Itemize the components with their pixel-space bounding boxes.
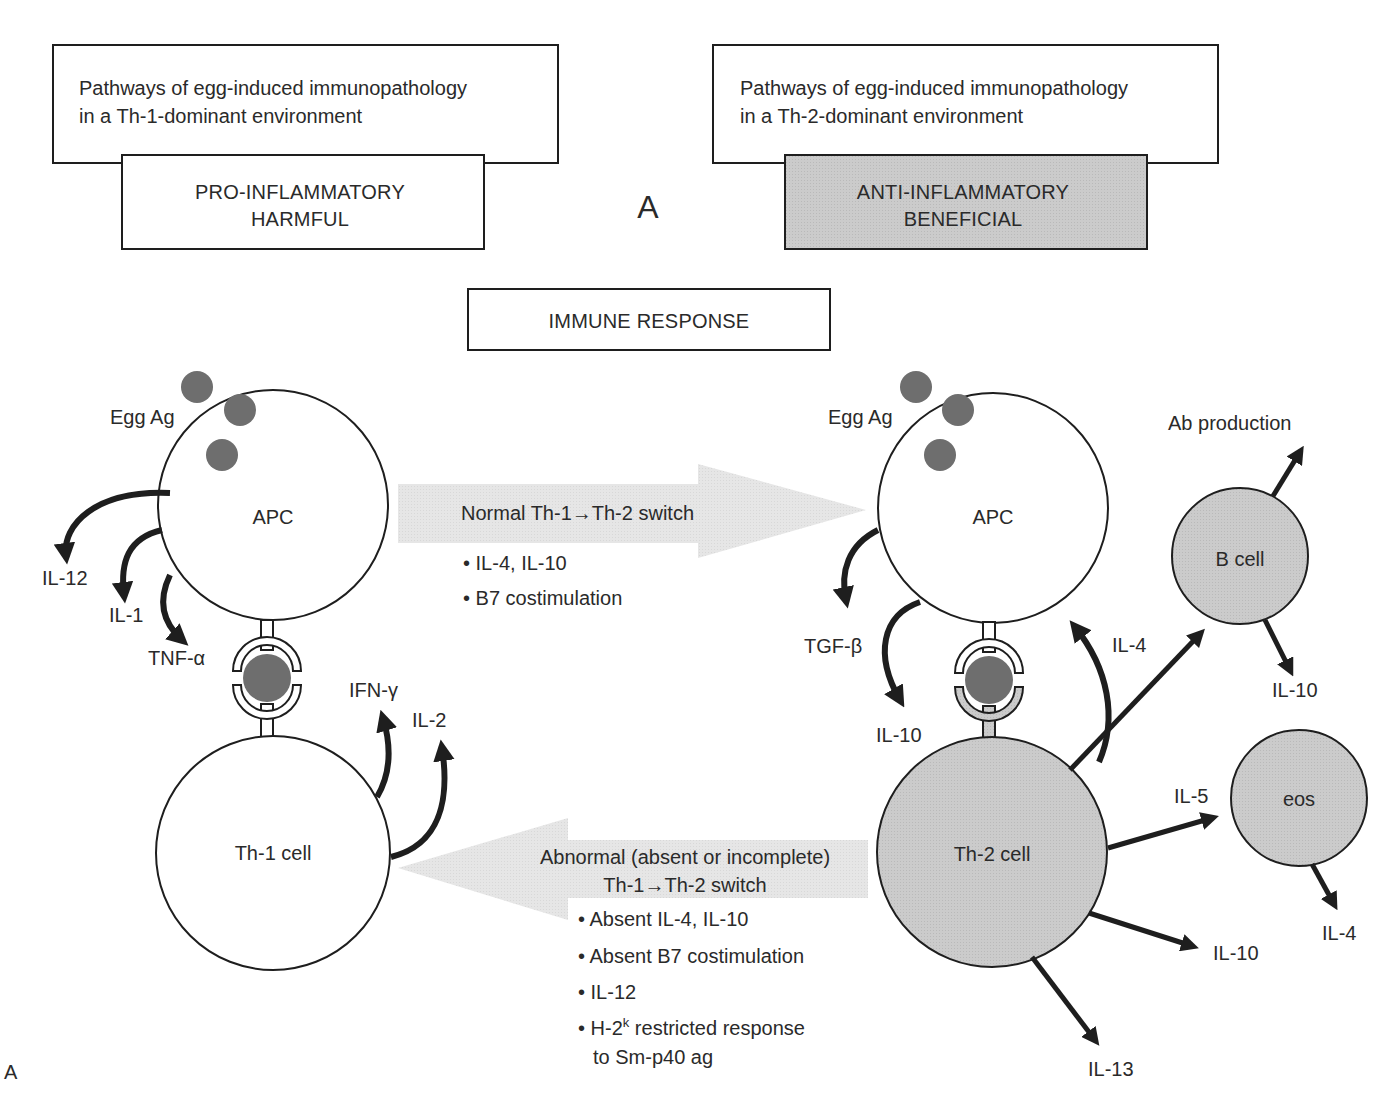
egg-ag-right-label: Egg Ag (828, 406, 893, 428)
tnf-alpha-label: TNF-α (148, 647, 205, 669)
il13-arrow (1032, 957, 1095, 1040)
beneficial-label: BENEFICIAL (904, 208, 1023, 230)
tnf-alpha-arrow (163, 575, 182, 640)
b-cell-label: B cell (1216, 548, 1265, 570)
ab-production-label: Ab production (1168, 412, 1291, 434)
abnormal-switch-bullet-2: • Absent B7 costimulation (578, 945, 804, 967)
tgf-beta-arrow (844, 530, 878, 600)
right-header-title-line1: Pathways of egg-induced immunopathology (740, 77, 1128, 99)
egg-ag-left-label: Egg Ag (110, 406, 175, 428)
th2-il10-arrow (1089, 913, 1192, 946)
eos-il4-label: IL-4 (1322, 922, 1356, 944)
figure-label: A (4, 1061, 18, 1083)
left-header-title-line1: Pathways of egg-induced immunopathology (79, 77, 467, 99)
il1-label: IL-1 (109, 604, 143, 626)
abnormal-switch-arrow: Abnormal (absent or incomplete) Th-1→Th-… (398, 818, 868, 1068)
apc-right-label: APC (972, 506, 1013, 528)
il13-label: IL-13 (1088, 1058, 1134, 1080)
egg-antigen-dot (900, 371, 932, 403)
egg-antigen-dot (206, 439, 238, 471)
left-header-title-line2: in a Th-1-dominant environment (79, 105, 363, 127)
ifn-gamma-label: IFN-γ (349, 679, 398, 701)
panel-marker: A (637, 189, 659, 225)
tgf-beta-label: TGF-β (804, 635, 862, 657)
abnormal-switch-title-line2: Th-1→Th-2 switch (603, 874, 766, 896)
abnormal-switch-bullet-1: • Absent IL-4, IL-10 (578, 908, 748, 930)
th1-pathway: APC Egg Ag IL-12 IL-1 TNF-α Th-1 cell IF… (42, 371, 446, 970)
mhc-tcr-synapse-right (955, 622, 1023, 740)
ab-production-arrow (1273, 452, 1300, 496)
egg-antigen-dot (924, 439, 956, 471)
apc-il10-arrow (885, 602, 920, 700)
mhc-tcr-synapse-left (233, 620, 301, 738)
th2-il10-label: IL-10 (1213, 942, 1259, 964)
abnormal-switch-bullet-4-line2: to Sm-p40 ag (593, 1046, 713, 1068)
th1-cell-label: Th-1 cell (235, 842, 312, 864)
il4-feedback-label: IL-4 (1112, 634, 1146, 656)
egg-antigen-dot (942, 394, 974, 426)
il5-label: IL-5 (1174, 785, 1208, 807)
th2-cell-label: Th-2 cell (954, 843, 1031, 865)
normal-switch-arrow: Normal Th-1→Th-2 switch • IL-4, IL-10 • … (398, 464, 866, 609)
abnormal-switch-bullet-4: • H-2k restricted response (578, 1015, 805, 1039)
egg-antigen-dot (224, 394, 256, 426)
pro-inflammatory-label: PRO-INFLAMMATORY (195, 181, 405, 203)
normal-switch-bullet-2: • B7 costimulation (463, 587, 622, 609)
ifn-gamma-arrow (377, 718, 389, 797)
right-header-panel: Pathways of egg-induced immunopathology … (713, 45, 1218, 249)
normal-switch-bullet-1: • IL-4, IL-10 (463, 552, 567, 574)
apc-cell-left (158, 390, 388, 620)
th2-pathway: APC Egg Ag TGF-β IL-10 Th-2 cell IL-4 B … (804, 371, 1367, 1080)
apc-left-label: APC (252, 506, 293, 528)
bcell-il10-arrow (1265, 620, 1290, 670)
diagram-canvas: Pathways of egg-induced immunopathology … (0, 0, 1398, 1100)
antigen-peptide (243, 654, 291, 702)
abnormal-switch-bullet-3: • IL-12 (578, 981, 636, 1003)
il5-arrow (1108, 818, 1212, 848)
egg-antigen-dot (181, 371, 213, 403)
harmful-label: HARMFUL (251, 208, 349, 230)
bcell-il10-label: IL-10 (1272, 679, 1318, 701)
apc-il10-label: IL-10 (876, 724, 922, 746)
il12-label: IL-12 (42, 567, 88, 589)
il4-feedback-arrow (1075, 627, 1109, 762)
il2-arrow (391, 748, 444, 857)
il1-arrow (123, 530, 162, 595)
eos-label: eos (1283, 788, 1315, 810)
il2-label: IL-2 (412, 709, 446, 731)
immune-response-label: IMMUNE RESPONSE (549, 310, 750, 332)
antigen-peptide (965, 656, 1013, 704)
abnormal-switch-title-line1: Abnormal (absent or incomplete) (540, 846, 830, 868)
eos-il4-arrow (1312, 864, 1334, 904)
right-header-title-line2: in a Th-2-dominant environment (740, 105, 1024, 127)
normal-switch-title: Normal Th-1→Th-2 switch (461, 502, 694, 524)
il12-arrow (66, 493, 170, 556)
anti-inflammatory-label: ANTI-INFLAMMATORY (857, 181, 1069, 203)
left-header-panel: Pathways of egg-induced immunopathology … (53, 45, 558, 249)
